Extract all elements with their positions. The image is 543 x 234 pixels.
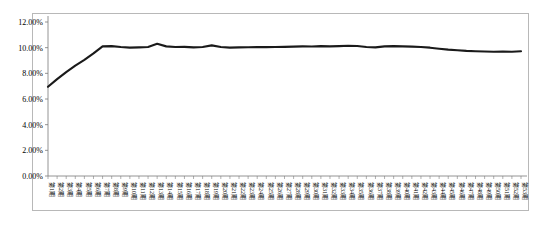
x-axis-tick-label: 第53期 — [521, 182, 529, 200]
x-axis-tick-label: 第13期 — [157, 182, 165, 200]
x-axis-tick-label: 第12期 — [148, 182, 156, 200]
line-chart: 0.00%2.00%4.00%6.00%8.00%10.00%12.00%第1期… — [0, 0, 543, 234]
y-axis-tick-label: 10.00% — [18, 44, 43, 53]
x-axis-tick-label: 第32期 — [330, 182, 338, 200]
x-axis-tick-label: 第44期 — [439, 182, 447, 200]
x-axis-tick-label: 第9期 — [121, 182, 129, 197]
x-axis-tick-label: 第1期 — [48, 182, 56, 197]
x-axis-tick-label: 第40期 — [403, 182, 411, 200]
x-axis-tick-label: 第39期 — [394, 182, 402, 200]
x-axis-tick-label: 第51期 — [503, 182, 511, 200]
x-axis-tick-label: 第16期 — [185, 182, 193, 200]
x-axis-tick-label: 第19期 — [212, 182, 220, 200]
x-axis-tick-label: 第48期 — [476, 182, 484, 200]
x-axis-tick-label: 第43期 — [430, 182, 438, 200]
y-axis-tick-label: 8.00% — [22, 69, 43, 78]
x-axis-tick-label: 第21期 — [230, 182, 238, 200]
x-axis-tick-label: 第47期 — [467, 182, 475, 200]
x-axis-tick-label: 第18期 — [203, 182, 211, 200]
x-axis-tick-label: 第49期 — [485, 182, 493, 200]
x-axis-tick-label: 第27期 — [285, 182, 293, 200]
x-axis-tick-label: 第7期 — [103, 182, 111, 197]
y-axis-tick-label: 2.00% — [22, 146, 43, 155]
x-axis-tick-label: 第52期 — [512, 182, 520, 200]
x-axis-tick-label: 第17期 — [194, 182, 202, 200]
x-axis-tick-label: 第24期 — [257, 182, 265, 200]
x-axis-tick-label: 第25期 — [267, 182, 275, 200]
x-axis-tick-label: 第15期 — [176, 182, 184, 200]
x-axis-tick-label: 第42期 — [421, 182, 429, 200]
x-axis-tick-label: 第36期 — [367, 182, 375, 200]
x-axis-tick-label: 第29期 — [303, 182, 311, 200]
x-axis-tick-label: 第37期 — [376, 182, 384, 200]
x-axis-tick-label: 第38期 — [385, 182, 393, 200]
x-axis-tick-label: 第28期 — [294, 182, 302, 200]
x-axis-tick-label: 第31期 — [321, 182, 329, 200]
x-axis-tick-label: 第10期 — [130, 182, 138, 200]
x-axis-tick-label: 第3期 — [66, 182, 74, 197]
x-axis-tick-label: 第33期 — [339, 182, 347, 200]
x-axis-tick-label: 第14期 — [166, 182, 174, 200]
x-axis-tick-label: 第22期 — [239, 182, 247, 200]
chart-plot-wrapper: 0.00%2.00%4.00%6.00%8.00%10.00%12.00%第1期… — [0, 0, 543, 234]
x-axis-tick-label: 第50期 — [494, 182, 502, 200]
x-axis-tick-label: 第34期 — [348, 182, 356, 200]
y-axis-tick-label: 0.00% — [22, 172, 43, 181]
x-axis-tick-label: 第26期 — [276, 182, 284, 200]
x-axis-tick-label: 第5期 — [85, 182, 93, 197]
y-axis-tick-label: 6.00% — [22, 95, 43, 104]
x-axis-tick-label: 第30期 — [312, 182, 320, 200]
x-axis-tick-label: 第4期 — [75, 182, 83, 197]
x-axis-tick-label: 第6期 — [94, 182, 102, 197]
y-axis-tick-label: 12.00% — [18, 18, 43, 27]
x-axis-tick-label: 第46期 — [458, 182, 466, 200]
chart-container: 0.00%2.00%4.00%6.00%8.00%10.00%12.00%第1期… — [0, 0, 543, 234]
x-axis-tick-label: 第41期 — [412, 182, 420, 200]
x-axis-tick-label: 第2期 — [57, 182, 65, 197]
x-axis-tick-label: 第35期 — [357, 182, 365, 200]
x-axis-tick-label: 第11期 — [139, 182, 147, 200]
y-axis-tick-label: 4.00% — [22, 121, 43, 130]
x-axis-tick-label: 第20期 — [221, 182, 229, 200]
x-axis-tick-label: 第8期 — [112, 182, 120, 197]
x-axis-tick-label: 第23期 — [248, 182, 256, 200]
x-axis-tick-label: 第45期 — [448, 182, 456, 200]
data-series-line — [48, 44, 521, 87]
